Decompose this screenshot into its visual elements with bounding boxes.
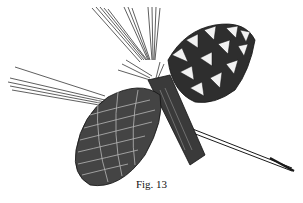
illustration-drawing <box>0 0 303 203</box>
pine-cone-illustration <box>0 0 303 203</box>
figure-caption: Fig. 13 <box>0 178 303 190</box>
